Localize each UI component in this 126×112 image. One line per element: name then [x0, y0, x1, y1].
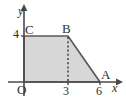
shaded-region-OCBA	[24, 36, 100, 82]
origin-label: O	[17, 83, 26, 96]
x-axis-label: x	[112, 82, 117, 94]
point-label-C: C	[25, 23, 34, 36]
point-label-B: B	[62, 22, 71, 35]
y-axis-tick-label-4: 4	[13, 28, 19, 40]
figure-container: C B A O 4 3 6 x y	[0, 0, 126, 112]
x-axis-tick-label-6: 6	[96, 85, 102, 97]
x-axis-tick-label-3: 3	[63, 85, 69, 97]
y-axis-label: y	[18, 5, 23, 17]
point-label-A: A	[101, 68, 110, 81]
